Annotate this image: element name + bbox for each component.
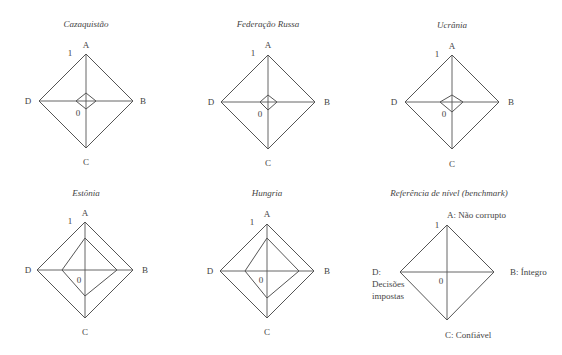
scale-one: 1 bbox=[435, 220, 440, 230]
panel-title: Referência de nível (benchmark) bbox=[389, 188, 508, 198]
label-d: D bbox=[391, 97, 398, 107]
label-b: B bbox=[508, 97, 514, 107]
label-d-line2: Decisões bbox=[372, 279, 405, 289]
panel-federacao-russa: Federação Russa A B C D 1 0 bbox=[208, 19, 330, 168]
radar-diagram-grid: Cazaquistão A B C D 1 0 Federação Russa … bbox=[0, 0, 562, 355]
label-d: D bbox=[25, 96, 32, 106]
label-b: B bbox=[142, 265, 148, 275]
label-b: B: Íntegro bbox=[510, 267, 547, 277]
panel-estonia: Estônia A B C D 1 0 bbox=[25, 188, 148, 337]
label-a: A bbox=[264, 209, 271, 219]
scale-one: 1 bbox=[68, 48, 73, 58]
label-d: D bbox=[208, 97, 215, 107]
label-d: D bbox=[207, 266, 214, 276]
label-d-line3: impostas bbox=[372, 291, 404, 301]
scale-zero: 0 bbox=[77, 275, 82, 285]
label-d-line1: D: bbox=[372, 267, 381, 277]
label-b: B bbox=[324, 97, 330, 107]
panel-title: Hungria bbox=[251, 188, 283, 198]
panel-benchmark: Referência de nível (benchmark) A: Não c… bbox=[372, 188, 547, 340]
panel-cazaquistao: Cazaquistão A B C D 1 0 bbox=[25, 19, 146, 167]
panel-title: Estônia bbox=[71, 188, 100, 198]
scale-zero: 0 bbox=[442, 109, 447, 119]
label-c: C bbox=[264, 327, 270, 337]
label-a: A bbox=[449, 41, 456, 51]
scale-zero: 0 bbox=[76, 108, 81, 118]
label-d: D bbox=[25, 265, 32, 275]
label-b: B bbox=[324, 266, 330, 276]
label-b: B bbox=[140, 96, 146, 106]
scale-zero: 0 bbox=[258, 109, 263, 119]
panel-hungria: Hungria A B C D 1 0 bbox=[207, 188, 330, 337]
panel-title: Cazaquistão bbox=[63, 19, 109, 29]
label-c: C bbox=[265, 158, 271, 168]
panel-title: Federação Russa bbox=[236, 19, 300, 29]
scale-one: 1 bbox=[250, 217, 255, 227]
label-c: C bbox=[449, 159, 455, 169]
label-c: C bbox=[83, 157, 89, 167]
value-diamond bbox=[62, 238, 117, 296]
label-a: A bbox=[83, 40, 90, 50]
scale-zero: 0 bbox=[439, 276, 444, 286]
label-c: C bbox=[82, 327, 88, 337]
panel-ucrania: Ucrânia A B C D 1 0 bbox=[391, 20, 514, 169]
label-a: A: Não corrupto bbox=[447, 210, 506, 220]
value-diamond bbox=[245, 238, 299, 298]
label-a: A bbox=[82, 208, 89, 218]
value-diamond bbox=[260, 95, 277, 110]
panel-title: Ucrânia bbox=[437, 20, 467, 30]
scale-one: 1 bbox=[68, 216, 73, 226]
scale-one: 1 bbox=[251, 48, 256, 58]
scale-one: 1 bbox=[435, 49, 440, 59]
scale-zero: 0 bbox=[259, 275, 264, 285]
label-c: C: Confiável bbox=[445, 330, 492, 340]
label-a: A bbox=[265, 40, 272, 50]
